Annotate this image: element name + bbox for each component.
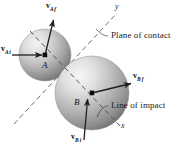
axis-label-x: x (121, 121, 125, 130)
center-dot-b (90, 91, 95, 96)
leader-plane-of-contact (96, 29, 108, 36)
sphere-label-b: B (74, 97, 80, 107)
annotation-line-of-impact: Line of impact (111, 100, 165, 110)
vector-label-v-a-initial: vA i (1, 44, 11, 55)
impact-diagram (0, 0, 183, 150)
figure-canvas: vA i vA f vB f vB i A B y x Plane of con… (0, 0, 183, 150)
annotation-plane-of-contact: Plane of contact (111, 30, 171, 40)
vector-subscript-v-b-final: B f (137, 76, 143, 82)
vector-subscript-v-b-initial: B i (75, 137, 81, 143)
sphere-label-a: A (42, 60, 48, 70)
vector-label-v-a-final: vA f (46, 1, 56, 12)
axis-label-y: y (115, 2, 119, 11)
vector-label-v-b-final: vB f (133, 71, 143, 82)
vector-subscript-v-a-initial: A i (5, 49, 11, 55)
vector-label-v-b-initial: vB i (71, 132, 81, 143)
vector-subscript-v-a-final: A f (50, 6, 56, 12)
center-dot-a (43, 53, 48, 58)
